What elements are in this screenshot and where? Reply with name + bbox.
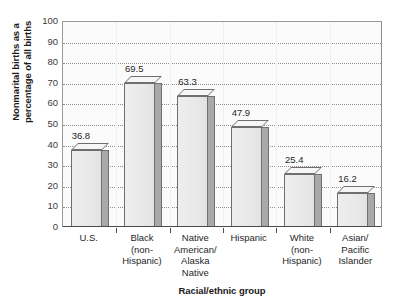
- x-axis-category-label: NativeAmerican/AlaskaNative: [169, 232, 222, 278]
- x-axis-category-label-line: Asian/: [329, 232, 382, 244]
- x-axis-category-label-line: American/: [169, 244, 222, 256]
- y-axis-tick-label: 60: [36, 98, 58, 108]
- bar: [124, 76, 162, 226]
- x-axis-category-label-line: Pacific: [329, 244, 382, 256]
- plot-inner: [63, 22, 381, 226]
- bar-top-face: [124, 76, 162, 83]
- y-axis-tick-label: 20: [36, 181, 58, 191]
- bar-side-face: [155, 83, 162, 226]
- bar-top-face: [337, 186, 375, 193]
- y-axis-tick-label: 80: [36, 57, 58, 67]
- x-axis-category-labels: U.S.Black(non-Hispanic)NativeAmerican/Al…: [62, 232, 382, 288]
- bar-front-face: [231, 127, 262, 226]
- bar-chart: Nonmarital births as a percentage of all…: [0, 0, 395, 301]
- x-axis-category-label-line: White: [275, 232, 328, 244]
- gridline: [63, 43, 381, 44]
- bar-front-face: [337, 193, 368, 226]
- x-axis-category-label: White(non-Hispanic): [275, 232, 328, 267]
- y-axis-tick-label: 10: [36, 201, 58, 211]
- bar: [284, 167, 322, 226]
- y-axis-tick-label: 70: [36, 78, 58, 88]
- category-separator: [116, 22, 117, 226]
- y-axis-tick-label: 90: [36, 37, 58, 47]
- x-axis-category-label-line: Hispanic): [275, 255, 328, 267]
- y-axis-tick-label: 100: [36, 16, 58, 26]
- gridline: [63, 63, 381, 64]
- bar-top-face: [231, 120, 269, 127]
- x-axis-category-label-line: (non-: [275, 244, 328, 256]
- x-axis-category-label-line: Native: [169, 267, 222, 279]
- bar-side-face: [368, 193, 375, 226]
- bar-front-face: [284, 174, 315, 226]
- bar-top-face: [71, 143, 109, 150]
- x-axis-category-label-line: (non-: [115, 244, 168, 256]
- x-axis-category-label: Asian/PacificIslander: [329, 232, 382, 267]
- x-axis-title: Racial/ethnic group: [62, 285, 382, 296]
- gridline: [63, 166, 381, 167]
- x-axis-category-label: U.S.: [62, 232, 115, 244]
- plot-area: 36.869.563.347.925.416.2: [62, 21, 382, 227]
- gridline: [63, 84, 381, 85]
- gridline: [63, 104, 381, 105]
- x-axis-category-label-line: U.S.: [62, 232, 115, 244]
- bar: [177, 89, 215, 226]
- y-axis-title: Nonmarital births as a percentage of all…: [5, 0, 39, 172]
- x-axis-category-label-line: Alaska: [169, 255, 222, 267]
- bar-side-face: [102, 150, 109, 226]
- bar: [337, 186, 375, 226]
- gridline: [63, 146, 381, 147]
- bar-value-label: 63.3: [178, 77, 197, 87]
- category-separator: [223, 22, 224, 226]
- x-axis-category-label-line: Native: [169, 232, 222, 244]
- y-axis-tick-label: 50: [36, 119, 58, 129]
- bar-side-face: [208, 96, 215, 226]
- x-axis-category-label-line: Black: [115, 232, 168, 244]
- bar-value-label: 25.4: [285, 155, 304, 165]
- bar: [71, 143, 109, 226]
- bar-value-label: 47.9: [232, 108, 251, 118]
- bar-side-face: [262, 127, 269, 226]
- x-axis-category-label: Hispanic: [222, 232, 275, 244]
- x-axis-category-label: Black(non-Hispanic): [115, 232, 168, 267]
- bar-value-label: 36.8: [72, 131, 91, 141]
- bar-side-face: [315, 174, 322, 226]
- y-axis-tick-label: 0: [36, 222, 58, 232]
- category-separator: [330, 22, 331, 226]
- gridline: [63, 125, 381, 126]
- y-axis-tick-label: 40: [36, 140, 58, 150]
- x-axis-category-label-line: Hispanic: [222, 232, 275, 244]
- bar: [231, 120, 269, 226]
- bar-front-face: [71, 150, 102, 226]
- category-separator: [170, 22, 171, 226]
- bar-front-face: [177, 96, 208, 226]
- gridline: [63, 207, 381, 208]
- x-axis-category-label-line: Hispanic): [115, 255, 168, 267]
- y-axis-title-line-2: percentage of all births: [22, 21, 35, 123]
- bar-front-face: [124, 83, 155, 226]
- y-axis-tick-label: 30: [36, 160, 58, 170]
- bar-value-label: 16.2: [338, 174, 357, 184]
- bar-value-label: 69.5: [125, 64, 144, 74]
- y-axis-tick-labels: 1009080706050403020100: [38, 21, 58, 227]
- bar-top-face: [284, 167, 322, 174]
- category-separator: [276, 22, 277, 226]
- y-axis-title-line-1: Nonmarital births as a: [10, 23, 23, 121]
- gridline: [63, 187, 381, 188]
- bar-top-face: [177, 89, 215, 96]
- x-axis-category-label-line: Islander: [329, 255, 382, 267]
